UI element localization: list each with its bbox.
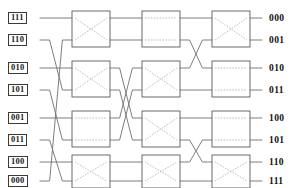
output-label-6: 110 [269,157,284,167]
switch-1-2 [72,61,110,97]
switch-3-1-body[interactable] [212,11,250,47]
switch-3-3 [212,111,250,147]
input-label-6: 100 [8,156,28,168]
switch-1-4 [72,155,110,188]
output-label-5: 101 [269,135,284,145]
wire-stage1-stage2-4 [110,68,142,118]
input-label-0: 111 [8,12,27,24]
input-label-5: 011 [8,134,27,146]
wire-input-5 [40,140,72,181]
switch-1-3-body[interactable] [72,111,110,147]
input-label-2: 010 [8,62,28,74]
input-label-3: 101 [8,84,28,96]
output-label-1: 001 [269,35,284,45]
wire-stage1-stage2-5 [110,90,142,140]
switch-2-2-body[interactable] [142,61,180,97]
switch-3-2 [212,61,250,97]
network-diagram: 111110010101001011100000 000001010011100… [0,0,307,188]
network-canvas [0,0,307,188]
output-label-7: 111 [269,176,283,186]
input-label-4: 001 [8,112,28,124]
output-label-3: 011 [269,85,284,95]
switch-2-3-body[interactable] [142,111,180,147]
switch-2-2 [142,61,180,97]
output-label-4: 100 [269,113,284,123]
output-label-0: 000 [269,13,284,23]
input-label-1: 110 [8,34,27,46]
switch-1-1 [72,11,110,47]
switch-3-4 [212,155,250,188]
wire-stage2-stage3-2 [180,40,212,68]
switch-3-2-body[interactable] [212,61,250,97]
switch-1-1-body[interactable] [72,11,110,47]
switch-2-4 [142,155,180,188]
input-label-7: 000 [8,175,28,187]
switch-2-3 [142,111,180,147]
switch-3-3-body[interactable] [212,111,250,147]
wire-stage2-stage3-6 [180,140,212,162]
switch-2-1 [142,11,180,47]
switch-3-1 [212,11,250,47]
switch-1-3 [72,111,110,147]
wire-input-1 [40,40,72,90]
switch-2-1-body[interactable] [142,11,180,47]
output-label-2: 010 [269,63,284,73]
switch-1-2-body[interactable] [72,61,110,97]
